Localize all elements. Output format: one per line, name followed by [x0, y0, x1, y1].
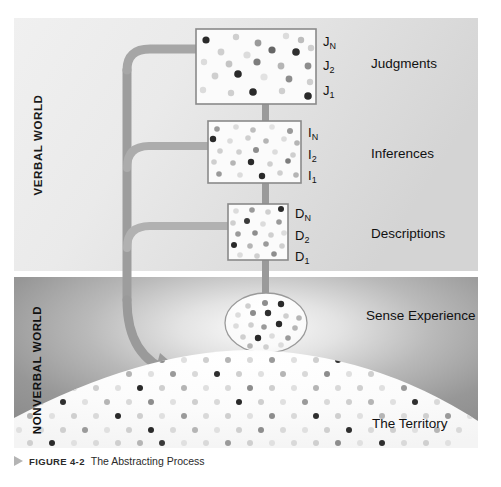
- descriptions-box: [228, 204, 288, 260]
- label-judgments: Judgments: [371, 56, 437, 71]
- label-inferences: Inferences: [371, 146, 434, 161]
- caption-figure-title: The Abstracting Process: [91, 455, 205, 467]
- judgments-box: [196, 29, 316, 104]
- label-sense-experience: Sense Experience: [366, 308, 476, 323]
- inferences-box: [208, 121, 301, 183]
- judgments-tick-labels: JN J2 J1: [323, 34, 336, 100]
- descriptions-tick-labels: DN D2 D1: [295, 206, 311, 266]
- figure-caption: FIGURE 4-2 The Abstracting Process: [14, 455, 205, 467]
- verbal-world-label: VERBAL WORLD: [32, 95, 44, 196]
- sense-experience-ellipse: [225, 293, 307, 353]
- caption-figure-number: FIGURE 4-2: [29, 456, 85, 467]
- nonverbal-world-label: NONVERBAL WORLD: [31, 306, 43, 434]
- label-territory: The Territory: [372, 416, 448, 431]
- figure-abstracting-process: VERBAL WORLD NONVERBAL WORLD JN J2 J1 IN…: [0, 0, 501, 487]
- inferences-tick-labels: IN I2 I1: [308, 125, 318, 185]
- label-descriptions: Descriptions: [371, 226, 446, 241]
- caption-triangle-icon: [14, 456, 23, 466]
